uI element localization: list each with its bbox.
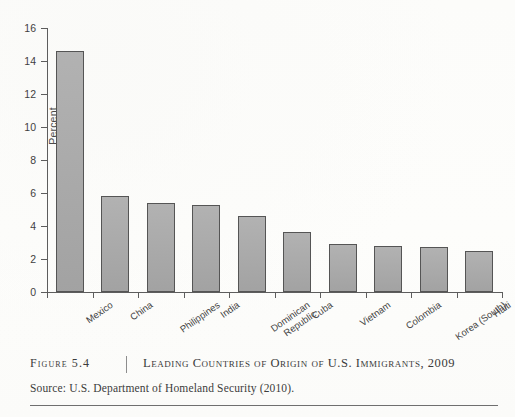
y-axis-tick — [41, 94, 47, 95]
x-axis-tick — [502, 292, 503, 298]
bar — [420, 247, 448, 292]
bar — [283, 232, 311, 292]
y-axis-tick-label: 4 — [0, 220, 36, 232]
y-axis-tick — [41, 226, 47, 227]
y-axis-tick — [41, 127, 47, 128]
bar — [238, 216, 266, 292]
bottom-rule — [30, 405, 498, 406]
bar — [192, 205, 220, 292]
x-axis-category-label: China — [129, 300, 155, 323]
y-axis-tick-label: 2 — [0, 253, 36, 265]
x-axis-category-label: Mexico — [84, 300, 115, 326]
y-axis-tick-label: 6 — [0, 187, 36, 199]
source-note: Source: U.S. Department of Homeland Secu… — [30, 382, 294, 394]
bar — [374, 246, 402, 292]
y-axis-tick — [41, 61, 47, 62]
x-axis-tick — [457, 292, 458, 298]
x-axis-tick — [411, 292, 412, 298]
y-axis-tick-label: 16 — [0, 22, 36, 34]
bar — [329, 244, 357, 292]
x-axis-tick — [229, 292, 230, 298]
x-axis-tick — [47, 292, 48, 298]
x-axis-tick — [184, 292, 185, 298]
x-axis-tick — [138, 292, 139, 298]
y-axis-tick-label: 8 — [0, 154, 36, 166]
x-axis-category-label: Vietnam — [358, 300, 392, 328]
x-axis-category-label: Cuba — [310, 300, 335, 322]
figure-number: Figure 5.4 — [30, 356, 126, 371]
y-axis-tick — [41, 193, 47, 194]
x-axis-tick — [320, 292, 321, 298]
bar-chart: Percent 0246810121416 MexicoChinaPhilipp… — [0, 0, 515, 347]
y-axis-tick — [41, 28, 47, 29]
figure-chart-region: Percent 0246810121416 MexicoChinaPhilipp… — [0, 0, 515, 347]
y-axis-tick-label: 12 — [0, 88, 36, 100]
figure-title: Leading Countries of Origin of U.S. Immi… — [143, 356, 455, 371]
figure-caption-block: Figure 5.4 Leading Countries of Origin o… — [0, 350, 515, 417]
x-axis-tick — [275, 292, 276, 298]
y-axis-tick-label: 0 — [0, 286, 36, 298]
y-axis-tick-label: 10 — [0, 121, 36, 133]
x-axis-tick — [93, 292, 94, 298]
bar — [101, 196, 129, 292]
bar — [147, 203, 175, 292]
y-axis-tick — [41, 259, 47, 260]
x-axis-category-label: Philippines — [178, 300, 222, 335]
y-axis-line — [47, 28, 48, 292]
x-axis-category-label: Dominican Republic — [269, 300, 318, 343]
bar — [56, 51, 84, 292]
x-axis-category-label: India — [219, 300, 242, 320]
caption-divider — [126, 356, 127, 373]
caption-row: Figure 5.4 Leading Countries of Origin o… — [30, 356, 455, 373]
x-axis-tick — [366, 292, 367, 298]
bar — [465, 251, 493, 292]
x-axis-category-label: Colombia — [405, 300, 444, 332]
y-axis-tick — [41, 160, 47, 161]
y-axis-tick-label: 14 — [0, 55, 36, 67]
